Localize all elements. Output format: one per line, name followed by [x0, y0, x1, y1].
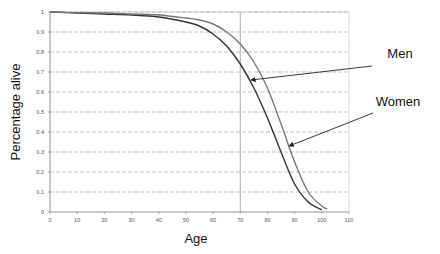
annotations: MenWomen: [251, 46, 420, 146]
x-tick-label: 110: [345, 217, 354, 223]
y-tick-label: 0.7: [36, 69, 44, 75]
x-tick-label: 70: [237, 217, 243, 223]
gridlines: [50, 12, 349, 212]
y-tick-label: 0: [41, 209, 44, 215]
y-tick-label: 0.3: [36, 149, 44, 155]
x-tick-label: 90: [292, 217, 298, 223]
y-tick-label: 0.6: [36, 89, 44, 95]
survival-chart: 00.10.20.30.40.50.60.70.80.91 0102030405…: [0, 0, 440, 254]
x-axis-label: Age: [184, 231, 207, 246]
x-tick-label: 40: [156, 217, 162, 223]
y-axis-label: Percentage alive: [8, 64, 23, 161]
x-tick-label: 60: [210, 217, 216, 223]
y-tick-label: 1: [41, 9, 44, 15]
y-tick-labels: 00.10.20.30.40.50.60.70.80.91: [36, 9, 50, 215]
x-tick-label: 30: [128, 217, 134, 223]
x-tick-label: 10: [74, 217, 80, 223]
series-lines: [50, 12, 327, 210]
arrow-men: [251, 66, 372, 80]
y-tick-label: 0.4: [36, 129, 44, 135]
x-tick-label: 100: [317, 217, 326, 223]
x-tick-label: 80: [264, 217, 270, 223]
annotation-men: Men: [387, 46, 412, 61]
x-tick-labels: 0102030405060708090100110: [48, 212, 353, 223]
x-tick-label: 50: [183, 217, 189, 223]
annotation-women: Women: [376, 94, 421, 109]
y-tick-label: 0.5: [36, 109, 44, 115]
x-tick-label: 0: [48, 217, 51, 223]
y-tick-label: 0.9: [36, 29, 44, 35]
line-women: [50, 12, 327, 209]
line-men: [50, 12, 322, 210]
x-tick-label: 20: [101, 217, 107, 223]
arrow-women: [289, 113, 373, 146]
y-tick-label: 0.1: [36, 189, 44, 195]
y-tick-label: 0.8: [36, 49, 44, 55]
y-tick-label: 0.2: [36, 169, 44, 175]
